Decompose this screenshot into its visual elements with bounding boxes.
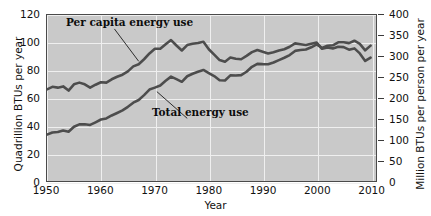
line-total-energy-use bbox=[47, 41, 371, 135]
y-axis-tick-label: 60 bbox=[0, 92, 40, 104]
y-axis-tick-label: 20 bbox=[0, 148, 40, 160]
gridline-horizontal bbox=[47, 183, 376, 184]
x-axis-tick-label: 2000 bbox=[304, 184, 331, 196]
x-axis-tick-label: 1950 bbox=[33, 184, 60, 196]
x-axis-tick-label: 1970 bbox=[141, 184, 168, 196]
y2-axis-tick-mark bbox=[378, 98, 384, 99]
y2-axis-tick-label: 300 bbox=[389, 50, 409, 62]
plot-area bbox=[46, 14, 377, 182]
y2-axis-tick-label: 0 bbox=[389, 176, 396, 188]
y2-axis-tick-label: 100 bbox=[389, 134, 409, 146]
y2-axis-tick-mark bbox=[378, 14, 384, 15]
y-axis-tick-label: 120 bbox=[0, 8, 40, 20]
series-lines bbox=[47, 15, 376, 182]
y2-axis-label: Million BTUs per person per year bbox=[414, 4, 426, 204]
y2-axis-tick-mark bbox=[378, 77, 384, 78]
y2-axis-tick-mark bbox=[378, 140, 384, 141]
annotation-total-energy-use: Total energy use bbox=[152, 106, 249, 118]
y2-axis-tick-label: 250 bbox=[389, 71, 409, 83]
y2-axis-tick-mark bbox=[378, 35, 384, 36]
annotation-per-capita-energy-use: Per capita energy use bbox=[66, 16, 193, 28]
y2-axis-tick-label: 150 bbox=[389, 113, 409, 125]
y2-axis-tick-mark bbox=[378, 56, 384, 57]
x-axis-label: Year bbox=[0, 199, 431, 211]
y2-axis-tick-mark bbox=[378, 161, 384, 162]
y2-axis-tick-mark bbox=[378, 119, 384, 120]
y2-axis-tick-label: 200 bbox=[389, 92, 409, 104]
y2-axis-tick-label: 350 bbox=[389, 29, 409, 41]
y-axis-label: Quadrillion BTUs per year bbox=[12, 24, 24, 184]
energy-use-chart: Quadrillion BTUs per year Million BTUs p… bbox=[0, 0, 431, 216]
leader-line-per-capita bbox=[114, 29, 138, 61]
x-axis-tick-label: 1980 bbox=[195, 184, 222, 196]
x-axis-tick-label: 1990 bbox=[250, 184, 277, 196]
y-axis-tick-label: 80 bbox=[0, 64, 40, 76]
y2-axis-tick-label: 50 bbox=[389, 155, 402, 167]
y-axis-tick-label: 40 bbox=[0, 120, 40, 132]
y-axis-tick-label: 100 bbox=[0, 36, 40, 48]
x-axis-tick-label: 1960 bbox=[87, 184, 114, 196]
y2-axis-tick-label: 400 bbox=[389, 8, 409, 20]
x-axis-tick-label: 2010 bbox=[358, 184, 385, 196]
